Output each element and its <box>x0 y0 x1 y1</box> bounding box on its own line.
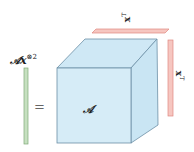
right-vector-label-sup: T <box>179 76 186 80</box>
equals-sign: = <box>34 100 45 113</box>
tensor-label: 𝒜 <box>83 104 93 115</box>
top-vector-label-base: x <box>122 17 132 22</box>
right-vector-label: xT <box>174 71 185 80</box>
result-label: 𝒜x⊗2 <box>10 54 37 66</box>
cube-front-face <box>57 68 131 143</box>
top-vector-label: xT <box>121 13 132 22</box>
top-vector-label-sup: T <box>120 13 127 17</box>
tensor-diagram <box>0 0 194 152</box>
result-label-sup: ⊗2 <box>27 53 37 61</box>
top-vector-bar <box>92 29 169 33</box>
result-vector-bar <box>24 68 28 144</box>
right-vector-bar <box>168 40 173 116</box>
result-label-base: 𝒜x <box>10 54 27 67</box>
